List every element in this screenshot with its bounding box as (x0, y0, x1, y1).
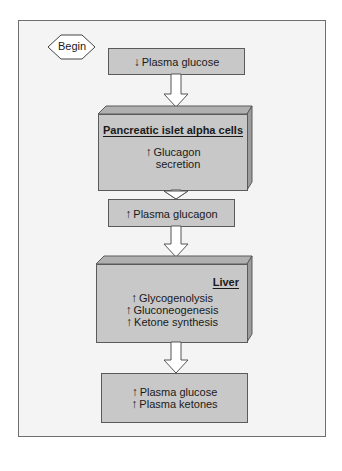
step-text: Plasma glucagon (133, 208, 217, 220)
flow-arrow-icon (163, 342, 189, 374)
step-text: Glucagon (153, 146, 200, 158)
step-pancreatic-alpha-cells: Pancreatic islet alpha cells ↑Glucagon s… (98, 114, 248, 191)
step-plasma-glucagon: ↑Plasma glucagon (108, 199, 235, 227)
step-liver: Liver ↑Glycogenolysis ↑Gluconeogenesis ↑… (96, 264, 248, 343)
step-text: Plasma glucose (142, 56, 220, 68)
step-text: secretion (109, 158, 247, 170)
up-arrow-icon: ↑ (131, 291, 137, 305)
flow-arrow-icon (163, 226, 189, 258)
down-arrow-icon: ↓ (134, 55, 140, 69)
step-text: Ketone synthesis (134, 316, 218, 328)
begin-label: Begin (47, 40, 97, 52)
step-outcome: ↑Plasma glucose ↑Plasma ketones (101, 373, 248, 423)
step-plasma-glucose-decrease: ↓Plasma glucose (108, 48, 245, 75)
flow-arrow-icon (163, 74, 189, 108)
step-text: Plasma glucose (140, 386, 218, 398)
up-arrow-icon: ↑ (131, 397, 137, 411)
organ-title: Liver (97, 276, 247, 288)
up-arrow-icon: ↑ (126, 315, 132, 329)
step-text: Gluconeogenesis (133, 304, 218, 316)
step-text: Glycogenolysis (139, 292, 213, 304)
up-arrow-icon: ↑ (125, 207, 131, 221)
organ-title: Pancreatic islet alpha cells (99, 124, 247, 136)
up-arrow-icon: ↑ (145, 145, 151, 159)
step-text: Plasma ketones (139, 398, 217, 410)
